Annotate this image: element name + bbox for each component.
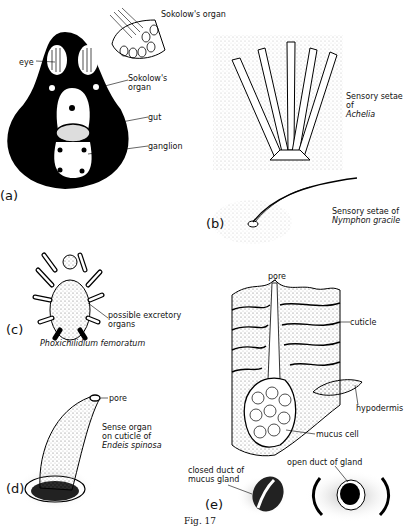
label-cuticle: cuticle bbox=[350, 318, 376, 327]
panel-letter-e: (e) bbox=[205, 497, 223, 512]
label-excretory-organs-2: organs bbox=[108, 320, 135, 329]
label-closed-duct-2: mucus gland bbox=[188, 475, 239, 484]
label-endeis-species: Endeis spinosa bbox=[102, 441, 162, 450]
label-sensory-setae-achelia-1: Sensory setae bbox=[346, 92, 403, 101]
label-pore-d: pore bbox=[109, 394, 127, 403]
label-closed-duct-1: closed duct of bbox=[188, 466, 244, 475]
panel-letter-c: (c) bbox=[6, 322, 23, 337]
panel-letter-b: (b) bbox=[206, 216, 224, 231]
label-excretory-organs-1: possible excretory bbox=[108, 311, 181, 320]
label-sense-organ-2: on cuticle of bbox=[102, 432, 151, 441]
label-sokolow-organ-top: Sokolow's organ bbox=[161, 10, 226, 19]
panel-letter-a: (a) bbox=[0, 188, 18, 203]
label-phoxichilidium-species: Phoxichilidium femoratum bbox=[40, 339, 145, 348]
panel-letter-d: (d) bbox=[6, 481, 24, 496]
phoxichilidium-drawing bbox=[35, 255, 108, 340]
label-sokolow-organ-mid: Sokolow's organ bbox=[128, 74, 172, 92]
label-sensory-setae-nymphon-species: Nymphon gracile bbox=[332, 216, 400, 225]
sokolow-organ-inset bbox=[110, 8, 165, 58]
endeis-sense-organ-drawing bbox=[17, 395, 108, 510]
achelia-setae-drawing bbox=[213, 35, 343, 170]
label-gut: gut bbox=[148, 113, 161, 122]
label-sensory-setae-nymphon-1: Sensory setae of bbox=[332, 207, 399, 216]
label-ganglion: ganglion bbox=[148, 142, 183, 151]
open-duct-drawing bbox=[305, 466, 395, 522]
label-eye: eye bbox=[19, 58, 34, 67]
label-sense-organ-1: Sense organ bbox=[102, 423, 152, 432]
head-section-drawing bbox=[8, 33, 127, 188]
label-hypodermis: hypodermis bbox=[356, 404, 403, 413]
label-sensory-setae-achelia-species: Achelia bbox=[346, 110, 375, 119]
label-open-duct: open duct of gland bbox=[287, 458, 362, 467]
label-sensory-setae-achelia-2: of bbox=[346, 101, 354, 110]
label-pore-e: pore bbox=[268, 272, 286, 281]
label-mucus-cell: mucus cell bbox=[316, 430, 359, 439]
figure-caption: Fig. 17 bbox=[184, 516, 216, 526]
